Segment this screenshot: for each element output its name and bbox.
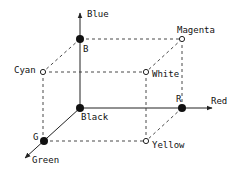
rgb-cube-diagram: Blue Red Green B R G Black Magenta Cyan … <box>0 0 240 171</box>
vertex-magenta-label: Magenta <box>177 25 215 35</box>
vertex-black-dot <box>76 104 84 112</box>
edge-blue-cyan <box>43 39 80 72</box>
vertex-magenta-dot <box>179 36 184 41</box>
vertex-green-label: G <box>33 132 38 142</box>
vertex-white-dot <box>143 69 148 74</box>
vertex-red-label: R <box>176 94 182 104</box>
vertex-red-dot <box>178 104 186 112</box>
vertex-cyan-label: Cyan <box>14 65 36 75</box>
edge-magenta-white <box>146 39 182 72</box>
vertex-black-label: Black <box>81 112 109 122</box>
vertex-white-label: White <box>152 69 179 79</box>
red-axis-label: Red <box>211 96 227 106</box>
vertex-blue-label: B <box>83 44 88 54</box>
edge-red-yellow <box>146 108 182 141</box>
blue-axis-label: Blue <box>87 9 109 19</box>
vertex-blue-dot <box>76 35 84 43</box>
vertex-yellow-label: Yellow <box>152 140 185 150</box>
vertex-yellow-dot <box>143 138 148 143</box>
vertex-cyan-dot <box>40 69 45 74</box>
cube-edges <box>43 39 182 141</box>
vertex-green-dot <box>40 137 48 145</box>
green-axis-label: Green <box>32 155 59 165</box>
